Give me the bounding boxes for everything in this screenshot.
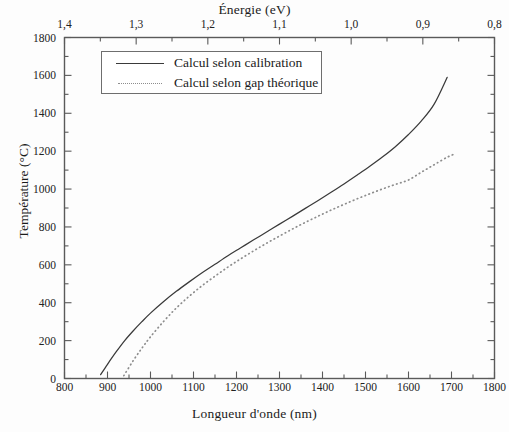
- top-tick-label: 0,8: [487, 18, 501, 30]
- figure-container: Énergie (eV) Température (°C) Longueur d…: [0, 0, 509, 432]
- legend-entry-calibration: Calcul selon calibration: [102, 52, 321, 73]
- legend: Calcul selon calibration Calcul selon ga…: [101, 51, 322, 94]
- bottom-tick-label: 1300: [268, 381, 291, 393]
- bottom-tick-label: 1000: [139, 381, 162, 393]
- bottom-tick-label: 1700: [440, 381, 463, 393]
- top-tick-label: 1,1: [272, 18, 286, 30]
- bottom-tick-label: 1400: [311, 381, 334, 393]
- legend-entry-gap-theorique: Calcul selon gap théorique: [102, 72, 321, 93]
- left-tick-label: 1600: [22, 69, 56, 81]
- top-tick-label: 1,4: [57, 18, 71, 30]
- bottom-tick-label: 1200: [225, 381, 248, 393]
- bottom-tick-label: 1600: [397, 381, 420, 393]
- left-tick-label: 1000: [22, 183, 56, 195]
- bottom-tick-label: 800: [56, 381, 73, 393]
- bottom-axis-ticks: [65, 372, 495, 379]
- top-tick-label: 1,3: [129, 18, 143, 30]
- legend-label-gap-theorique: Calcul selon gap théorique: [174, 75, 318, 91]
- top-axis-ticks: [65, 38, 495, 45]
- left-axis-ticks: [65, 38, 72, 379]
- top-tick-label: 0,9: [416, 18, 430, 30]
- legend-label-calibration: Calcul selon calibration: [174, 55, 302, 71]
- left-tick-label: 1400: [22, 107, 56, 119]
- bottom-tick-label: 1800: [483, 381, 506, 393]
- legend-line-dotted-icon: [112, 77, 168, 89]
- left-tick-label: 0: [22, 373, 56, 385]
- legend-line-solid-icon: [112, 57, 168, 69]
- left-tick-label: 200: [22, 335, 56, 347]
- left-tick-label: 1800: [22, 32, 56, 44]
- data-series-layer: [101, 77, 456, 375]
- left-tick-label: 600: [22, 259, 56, 271]
- bottom-tick-label: 1100: [182, 381, 205, 393]
- series-line-0: [101, 77, 448, 374]
- top-tick-label: 1,0: [344, 18, 358, 30]
- left-tick-label: 400: [22, 297, 56, 309]
- right-axis-ticks: [488, 38, 495, 379]
- bottom-tick-label: 900: [99, 381, 116, 393]
- bottom-tick-label: 1500: [354, 381, 377, 393]
- series-line-1: [124, 153, 456, 375]
- top-tick-label: 1,2: [201, 18, 215, 30]
- left-tick-label: 1200: [22, 145, 56, 157]
- left-tick-label: 800: [22, 221, 56, 233]
